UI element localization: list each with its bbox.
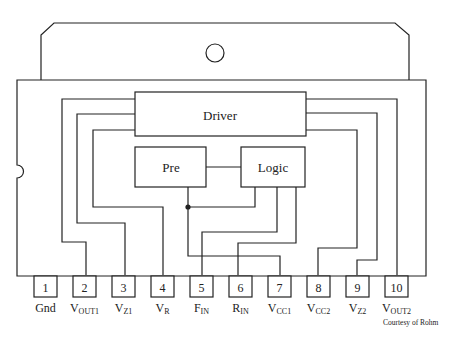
pin-5: 5 FIN bbox=[190, 276, 213, 316]
junction-dot bbox=[185, 204, 190, 209]
block-driver: Driver bbox=[135, 92, 306, 136]
pin-10: 10 VOUT2 bbox=[382, 276, 411, 316]
pin-number: 9 bbox=[355, 281, 361, 295]
credit-text: Courtesy of Rohm bbox=[383, 318, 439, 327]
pin-2: 2 VOUT1 bbox=[70, 276, 99, 316]
block-driver-label: Driver bbox=[203, 108, 238, 123]
mounting-hole-icon bbox=[206, 44, 224, 62]
pin-number: 10 bbox=[391, 281, 403, 295]
pin-8: 8 VCC2 bbox=[307, 276, 330, 316]
pin-name: VZ2 bbox=[349, 301, 367, 316]
pin-number: 2 bbox=[82, 281, 88, 295]
block-pre: Pre bbox=[135, 147, 206, 187]
pin-6: 6 RIN bbox=[229, 276, 252, 316]
pin-name: VOUT1 bbox=[70, 301, 99, 316]
package-tab bbox=[41, 23, 409, 80]
pin-number: 4 bbox=[160, 281, 166, 295]
block-logic: Logic bbox=[241, 147, 305, 187]
pin-number: 5 bbox=[199, 281, 205, 295]
pin-number: 8 bbox=[316, 281, 322, 295]
pin-1: 1 Gnd bbox=[34, 276, 57, 315]
pin-4: 4 VR bbox=[151, 276, 174, 316]
pin-number: 3 bbox=[121, 281, 127, 295]
ic-diagram: Driver Pre Logic 1 Gnd 2 VOUT1 3 VZ1 4 V… bbox=[0, 0, 452, 344]
pin-name: VCC1 bbox=[268, 301, 291, 316]
pin-name: VOUT2 bbox=[382, 301, 411, 316]
pin-9: 9 VZ2 bbox=[346, 276, 369, 316]
pin-7: 7 VCC1 bbox=[268, 276, 291, 316]
pins: 1 Gnd 2 VOUT1 3 VZ1 4 VR 5 FIN 6 RIN 7 V… bbox=[34, 276, 411, 316]
pin-name: Gnd bbox=[35, 301, 56, 315]
pin-name: VZ1 bbox=[115, 301, 133, 316]
pin-3: 3 VZ1 bbox=[112, 276, 135, 316]
pin-name: VR bbox=[155, 301, 170, 316]
pin-number: 1 bbox=[43, 281, 49, 295]
pin-number: 7 bbox=[277, 281, 283, 295]
pin-name: RIN bbox=[232, 301, 249, 316]
pin-number: 6 bbox=[238, 281, 244, 295]
block-pre-label: Pre bbox=[162, 160, 180, 175]
pin-name: FIN bbox=[194, 301, 209, 316]
pin-name: VCC2 bbox=[307, 301, 330, 316]
block-logic-label: Logic bbox=[258, 160, 289, 175]
